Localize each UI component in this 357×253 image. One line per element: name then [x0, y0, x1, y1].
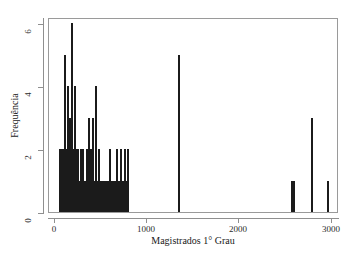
x-axis-line [48, 218, 339, 219]
bar [327, 181, 329, 212]
x-tick-label: 0 [34, 224, 74, 234]
bar [311, 118, 313, 212]
x-axis-title: Magistrados 1° Grau [48, 235, 338, 247]
bar [127, 149, 129, 212]
y-tick-mark [38, 87, 43, 88]
x-tick-mark [146, 218, 147, 223]
x-tick-mark [54, 218, 55, 223]
y-tick-label: 4 [24, 88, 33, 102]
x-tick-label: 2000 [218, 224, 258, 234]
plot-panel [48, 18, 338, 213]
bars-layer [49, 19, 337, 212]
y-tick-label: 2 [24, 151, 33, 165]
y-tick-label: 0 [24, 214, 33, 228]
x-tick-label: 3000 [311, 224, 351, 234]
y-axis-line [43, 18, 44, 214]
y-tick-label: 6 [24, 25, 33, 39]
y-tick-mark [38, 24, 43, 25]
bar [293, 181, 295, 212]
histogram-figure: 0246 0100020003000 Frequência Magistrado… [0, 0, 357, 253]
x-tick-mark [238, 218, 239, 223]
bar [178, 55, 180, 212]
y-tick-mark [38, 213, 43, 214]
y-axis-title: Frequência [8, 18, 22, 213]
y-tick-mark [38, 150, 43, 151]
x-tick-mark [331, 218, 332, 223]
x-tick-label: 1000 [126, 224, 166, 234]
